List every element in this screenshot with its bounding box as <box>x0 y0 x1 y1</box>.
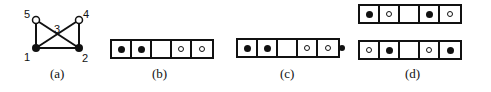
cell-open <box>298 40 318 56</box>
open-dot-icon <box>178 46 184 52</box>
node-1-label: 1 <box>24 51 30 63</box>
node-5-open <box>33 17 40 24</box>
outside-filled-dot-icon <box>339 45 345 51</box>
cell-filled <box>440 42 460 58</box>
node-4-label: 4 <box>83 8 89 20</box>
node-5-label: 5 <box>24 8 30 20</box>
node-1-filled <box>32 44 40 52</box>
filled-dot-icon <box>138 46 145 53</box>
filled-dot-icon <box>386 47 393 54</box>
filled-dot-icon <box>366 11 373 18</box>
panel-c-label: (c) <box>280 66 294 82</box>
open-dot-icon <box>447 11 453 17</box>
cell-empty <box>278 40 298 56</box>
filled-dot-icon <box>426 11 433 18</box>
cell-filled <box>132 41 152 57</box>
graph-diagram: 1 2 3 4 5 <box>0 0 110 70</box>
panel-d-label: (d) <box>405 66 420 82</box>
open-dot-icon <box>426 47 432 53</box>
cell-open <box>172 41 192 57</box>
cell-open <box>192 41 212 57</box>
cell-filled <box>112 41 132 57</box>
panel-a-label: (a) <box>50 66 64 82</box>
node-4-open <box>76 17 83 24</box>
open-dot-icon <box>199 46 205 52</box>
cell-open <box>440 6 460 22</box>
cell-open <box>420 42 440 58</box>
node-2-filled <box>75 44 83 52</box>
cell-empty <box>400 6 420 22</box>
panel-d-strip-bottom <box>358 40 462 60</box>
cell-filled <box>420 6 440 22</box>
node-2-label: 2 <box>82 52 88 64</box>
panel-c-strip <box>236 38 340 58</box>
filled-dot-icon <box>244 45 251 52</box>
cell-open <box>360 42 380 58</box>
cell-open <box>318 40 338 56</box>
cell-filled <box>258 40 278 56</box>
panel-b-label: (b) <box>152 66 167 82</box>
open-dot-icon <box>304 45 310 51</box>
cell-open <box>380 6 400 22</box>
filled-dot-icon <box>264 45 271 52</box>
cell-filled <box>238 40 258 56</box>
filled-dot-icon <box>118 46 125 53</box>
cell-empty <box>152 41 172 57</box>
open-dot-icon <box>325 45 331 51</box>
panel-b-strip <box>110 39 214 59</box>
node-3-label: 3 <box>54 23 60 35</box>
filled-dot-icon <box>447 47 454 54</box>
cell-filled <box>380 42 400 58</box>
open-dot-icon <box>366 47 372 53</box>
panel-a-graph: 1 2 3 4 5 (a) <box>0 0 110 92</box>
open-dot-icon <box>386 11 392 17</box>
cell-filled <box>360 6 380 22</box>
cell-empty <box>400 42 420 58</box>
panel-d-strip-top <box>358 4 462 24</box>
